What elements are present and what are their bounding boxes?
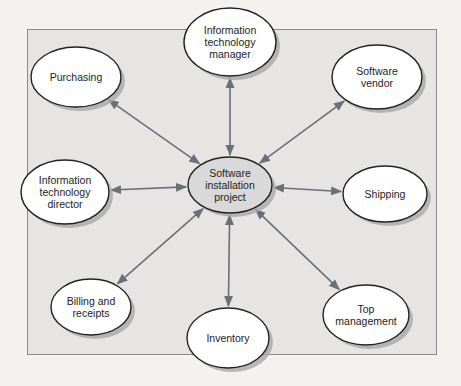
node-ellipses bbox=[21, 8, 431, 372]
arrow-software-vendor bbox=[260, 101, 344, 163]
arrow-inventory bbox=[228, 215, 229, 306]
software-vendor-node bbox=[332, 45, 422, 109]
arrow-top-management bbox=[255, 209, 339, 289]
arrow-it-director bbox=[111, 187, 186, 190]
top-management-node bbox=[323, 285, 409, 345]
billing-node bbox=[51, 279, 131, 335]
diagram-canvas: Software installation projectPurchasingI… bbox=[0, 0, 461, 386]
diagram-graphics bbox=[0, 0, 461, 386]
shipping-node bbox=[343, 166, 427, 222]
arrow-purchasing bbox=[109, 100, 200, 164]
arrow-shipping bbox=[274, 188, 341, 192]
hub-node bbox=[188, 157, 272, 213]
arrow-billing bbox=[117, 209, 203, 284]
inventory-node bbox=[187, 308, 269, 368]
it-director-node bbox=[21, 160, 109, 224]
purchasing-node bbox=[31, 47, 121, 107]
it-manager-node bbox=[184, 8, 276, 76]
